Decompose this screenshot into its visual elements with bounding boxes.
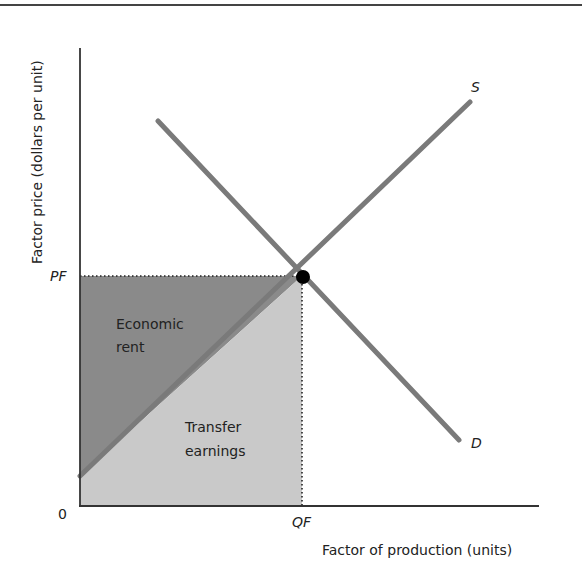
- demand-label: D: [471, 435, 482, 451]
- economic-rent-label-line1: Economic: [116, 316, 184, 332]
- transfer-earnings-label-line1: Transfer: [184, 419, 242, 435]
- transfer-earnings-label-line2: earnings: [185, 443, 246, 459]
- supply-label: S: [471, 79, 480, 95]
- pf-tick-label: PF: [50, 268, 67, 284]
- origin-label: 0: [58, 506, 67, 522]
- economic-rent-chart: S D PF QF 0 Factor of production (units)…: [0, 0, 582, 569]
- equilibrium-point: [296, 270, 310, 284]
- qf-tick-label: QF: [292, 514, 312, 530]
- x-axis-title: Factor of production (units): [322, 542, 512, 558]
- y-axis-title: Factor price (dollars per unit): [29, 60, 45, 264]
- economic-rent-label-line2: rent: [116, 339, 145, 355]
